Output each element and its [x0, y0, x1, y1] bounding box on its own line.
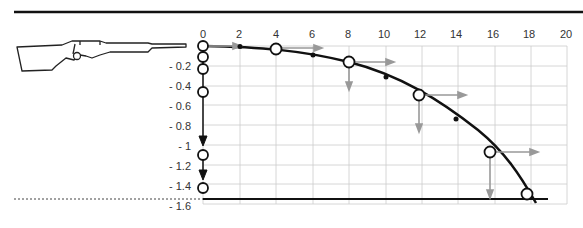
x-tick: 16 [487, 28, 499, 40]
x-tick: 12 [414, 28, 426, 40]
x-tick: 8 [345, 28, 351, 40]
x-tick: 20 [560, 28, 572, 40]
projectile-diagram: 0 2 4 6 8 10 12 14 16 18 20 - 0.2 - 0.4 … [0, 0, 583, 228]
x-tick: 6 [309, 28, 315, 40]
x-tick: 0 [200, 28, 206, 40]
x-tick: 2 [236, 28, 242, 40]
x-tick: 18 [523, 28, 535, 40]
y-tick: - 1.2 [169, 160, 191, 172]
y-axis-labels: - 0.2 - 0.4 - 0.6 - 0.8 - 1 - 1.2 - 1.4 … [169, 60, 191, 212]
y-tick: - 1.4 [169, 180, 191, 192]
trajectory-curve [203, 46, 536, 203]
y-tick: - 0.6 [169, 100, 191, 112]
x-tick: 14 [450, 28, 462, 40]
y-tick: - 1 [178, 140, 191, 152]
y-tick: - 0.8 [169, 120, 191, 132]
y-tick: - 0.4 [169, 80, 191, 92]
rifle-icon [17, 41, 186, 71]
y-tick: - 1.6 [169, 200, 191, 212]
x-axis-labels: 0 2 4 6 8 10 12 14 16 18 20 [200, 28, 572, 40]
grid [203, 46, 567, 204]
y-tick: - 0.2 [169, 60, 191, 72]
x-tick: 4 [273, 28, 279, 40]
trajectory-markers [271, 44, 533, 200]
x-tick: 10 [378, 28, 390, 40]
